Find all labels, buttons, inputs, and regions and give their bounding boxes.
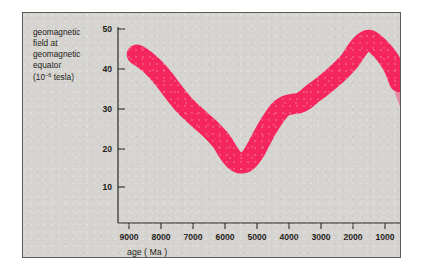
data-series-band bbox=[137, 40, 399, 163]
y-axis-units-prefix: (10 bbox=[33, 72, 45, 82]
x-tick-label-6000: 6000 bbox=[215, 232, 234, 242]
x-axis-ticks: 9000 8000 7000 6000 5000 4000 3000 2000 … bbox=[119, 223, 394, 242]
geomagnetic-field-chart: geomagnetic field at geomagnetic equator… bbox=[23, 13, 401, 258]
x-tick-label-4000: 4000 bbox=[279, 232, 298, 242]
data-series-group bbox=[137, 40, 401, 163]
y-axis-units: (10−6 tesla) bbox=[33, 72, 74, 82]
y-axis-label-line3: geomagnetic bbox=[33, 49, 81, 59]
y-axis-units-suffix: tesla) bbox=[51, 72, 74, 82]
y-tick-label-10: 10 bbox=[102, 182, 112, 192]
x-tick-label-1000: 1000 bbox=[375, 232, 394, 242]
y-axis-label-line1: geomagnetic bbox=[33, 27, 81, 37]
y-axis-label-line2: field at bbox=[33, 38, 58, 48]
x-tick-label-8000: 8000 bbox=[151, 232, 170, 242]
y-axis-label: geomagnetic field at geomagnetic equator… bbox=[33, 27, 81, 82]
figure-panel: geomagnetic field at geomagnetic equator… bbox=[22, 12, 401, 258]
y-tick-label-40: 40 bbox=[102, 64, 112, 74]
x-tick-label-3000: 3000 bbox=[311, 232, 330, 242]
x-tick-label-2000: 2000 bbox=[343, 232, 362, 242]
x-tick-label-5000: 5000 bbox=[247, 232, 266, 242]
x-tick-label-9000: 9000 bbox=[119, 232, 138, 242]
y-axis-ticks: 50 40 30 20 10 bbox=[102, 24, 125, 192]
y-tick-label-50: 50 bbox=[102, 24, 112, 34]
x-tick-label-7000: 7000 bbox=[183, 232, 202, 242]
y-tick-label-30: 30 bbox=[102, 104, 112, 114]
y-axis-label-line4: equator bbox=[33, 60, 61, 70]
y-tick-label-20: 20 bbox=[102, 144, 112, 154]
x-axis-caption: age ( Ma ) bbox=[127, 247, 167, 257]
